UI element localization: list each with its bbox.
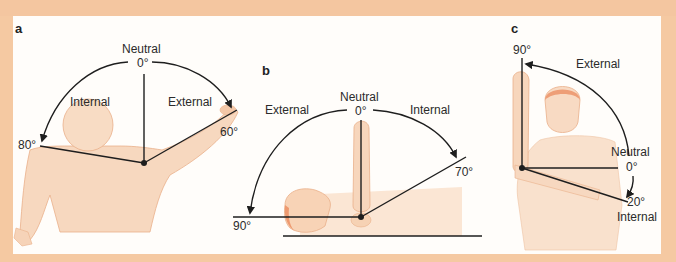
panel-b-neutral-label: Neutral bbox=[340, 91, 379, 103]
panel-c-90-degree-label: 90° bbox=[513, 44, 531, 56]
panel-c-internal-label: Internal bbox=[617, 211, 657, 223]
panel-c-zero-label: 0° bbox=[626, 161, 637, 173]
panel-a-60-degree-label: 60° bbox=[220, 126, 238, 138]
panel-a-figure-illustration bbox=[14, 99, 238, 246]
panel-b-zero-label: 0° bbox=[355, 105, 366, 117]
panel-b-letter: b bbox=[262, 64, 270, 77]
panel-c-pivot-point bbox=[519, 165, 525, 171]
panel-b-pivot-point bbox=[358, 214, 364, 220]
panel-c-figure-illustration bbox=[513, 72, 622, 250]
panel-c-neutral-label: Neutral bbox=[611, 146, 650, 158]
panel-a-80-degree-label: 80° bbox=[18, 139, 36, 151]
panel-b-external-label: External bbox=[265, 104, 309, 116]
panel-b-internal-label: Internal bbox=[410, 104, 450, 116]
panel-a-letter: a bbox=[15, 22, 22, 35]
panel-c-20-degree-label: 20° bbox=[627, 196, 645, 208]
panel-b-70-degree-label: 70° bbox=[455, 166, 473, 178]
panel-a-neutral-label: Neutral bbox=[122, 43, 161, 55]
panel-b-figure-illustration bbox=[285, 121, 462, 236]
panel-a-internal-label: Internal bbox=[70, 96, 110, 108]
panel-a-external-label: External bbox=[168, 96, 212, 108]
panel-a-zero-label: 0° bbox=[137, 57, 148, 69]
panel-c-letter: c bbox=[511, 22, 518, 35]
panel-a-pivot-point bbox=[141, 160, 147, 166]
panel-c-external-label: External bbox=[576, 58, 620, 70]
panel-b-90-degree-label: 90° bbox=[233, 220, 251, 232]
shoulder-rotation-diagram bbox=[0, 0, 676, 262]
